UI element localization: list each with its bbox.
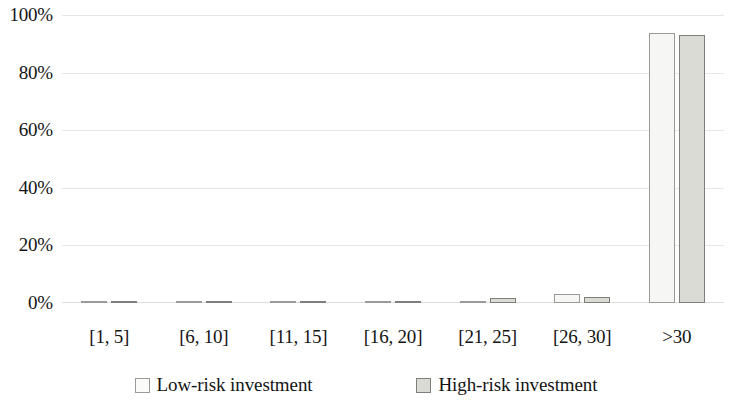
bar-high-risk xyxy=(395,301,421,303)
bar-group xyxy=(629,15,724,303)
bar-high-risk xyxy=(490,298,516,303)
y-axis-tick-label: 20% xyxy=(19,234,53,256)
x-axis-tick-label: >30 xyxy=(629,326,724,348)
y-axis-tick-label: 80% xyxy=(19,62,53,84)
high-risk-swatch-icon xyxy=(416,378,431,393)
y-axis: 100% 80% 60% 40% 20% 0% xyxy=(0,0,58,320)
legend-item-low-risk: Low-risk investment xyxy=(135,374,313,396)
bar-low-risk xyxy=(649,33,675,303)
low-risk-swatch-icon xyxy=(135,378,150,393)
bar-high-risk xyxy=(679,35,705,303)
bar-high-risk xyxy=(300,301,326,303)
bar-low-risk xyxy=(81,301,107,303)
bar-group xyxy=(157,15,252,303)
bar-high-risk xyxy=(111,301,137,303)
x-axis-tick-label: [26, 30] xyxy=(535,326,630,348)
x-axis-tick-label: [11, 15] xyxy=(251,326,346,348)
bar-chart: 100% 80% 60% 40% 20% 0% xyxy=(0,0,732,411)
bar-high-risk xyxy=(584,297,610,303)
bar-low-risk xyxy=(460,301,486,303)
plot-area xyxy=(62,15,724,303)
bar-low-risk xyxy=(365,301,391,303)
bar-group xyxy=(535,15,630,303)
y-axis-tick-label: 40% xyxy=(19,177,53,199)
bar-group xyxy=(346,15,441,303)
chart-legend: Low-risk investment High-risk investment xyxy=(0,374,732,396)
bar-low-risk xyxy=(176,301,202,303)
legend-label: High-risk investment xyxy=(438,374,597,396)
bar-high-risk xyxy=(206,301,232,303)
x-axis-tick-label: [21, 25] xyxy=(440,326,535,348)
bar-group xyxy=(440,15,535,303)
x-axis-tick-label: [1, 5] xyxy=(62,326,157,348)
bar-low-risk xyxy=(270,301,296,303)
bar-group-container xyxy=(62,15,724,303)
legend-item-high-risk: High-risk investment xyxy=(416,374,597,396)
y-axis-tick-label: 100% xyxy=(9,4,53,26)
legend-label: Low-risk investment xyxy=(157,374,313,396)
bar-group xyxy=(62,15,157,303)
plot-area-wrapper: 100% 80% 60% 40% 20% 0% xyxy=(0,0,732,320)
y-axis-tick-label: 60% xyxy=(19,119,53,141)
x-axis-tick-label: [6, 10] xyxy=(157,326,252,348)
bar-low-risk xyxy=(554,294,580,303)
y-axis-tick-label: 0% xyxy=(28,292,53,314)
x-axis: [1, 5] [6, 10] [11, 15] [16, 20] [21, 25… xyxy=(62,326,724,348)
x-axis-tick-label: [16, 20] xyxy=(346,326,441,348)
bar-group xyxy=(251,15,346,303)
